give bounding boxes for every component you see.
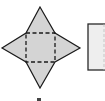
figure-canvas bbox=[0, 0, 105, 101]
label-mark bbox=[37, 98, 41, 101]
partial-rectangle bbox=[88, 24, 105, 70]
pyramid-net-outline bbox=[2, 7, 80, 88]
net-diagram bbox=[0, 0, 105, 101]
